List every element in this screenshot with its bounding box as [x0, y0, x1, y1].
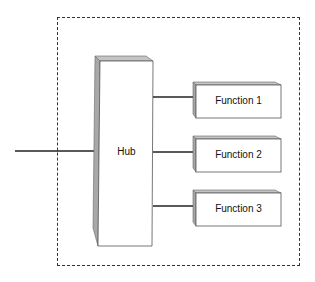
diagram-canvas: [0, 0, 315, 282]
hub-bevel-top: [95, 56, 153, 61]
hub-label: Hub: [100, 146, 153, 157]
function-3-label: Function 3: [196, 203, 281, 214]
function-1-label: Function 1: [196, 95, 281, 106]
function-2-label: Function 2: [196, 149, 281, 160]
